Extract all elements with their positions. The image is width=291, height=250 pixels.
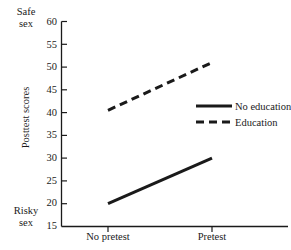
- series-line-no-education: [108, 158, 212, 204]
- legend-label-education: Education: [235, 117, 278, 128]
- x-tick-label-no-pretest: No pretest: [86, 231, 129, 243]
- x-tick-label-pretest: Pretest: [198, 231, 227, 243]
- series-line-education: [108, 63, 212, 111]
- y-axis-ticks: [62, 22, 68, 204]
- line-chart: Safe sex Risky sex Posttest scores 60 55…: [0, 0, 291, 250]
- legend-label-no-education: No education: [235, 101, 291, 112]
